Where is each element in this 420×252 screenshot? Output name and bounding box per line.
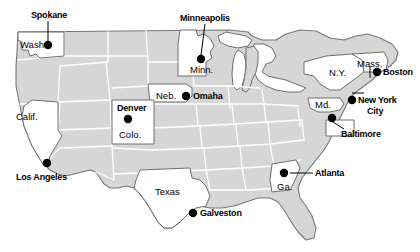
state-label-colorado: Colo. [119, 130, 141, 140]
city-label-newyork: New York [358, 96, 397, 105]
city-label-minneapolis: Minneapolis [180, 14, 230, 23]
state-label-washington: Wash. [20, 40, 47, 50]
city-label-boston: Boston [383, 68, 413, 77]
city-dot-newyorkcity[interactable] [348, 96, 356, 104]
us-map-figure: Spokane Minneapolis Omaha Boston New Yor… [0, 0, 420, 252]
state-label-california: Calif. [16, 112, 38, 122]
state-label-nebraska: Neb. [156, 91, 176, 101]
city-dot-denver[interactable] [124, 115, 132, 123]
city-label-galveston: Galveston [200, 209, 242, 218]
city-label-atlanta: Atlanta [315, 169, 344, 178]
city-dot-atlanta[interactable] [280, 169, 288, 177]
state-label-massachusetts: Mass. [357, 59, 382, 69]
city-dot-galveston[interactable] [189, 209, 197, 217]
state-label-texas: Texas [155, 187, 180, 197]
state-label-newyork: N.Y. [329, 68, 346, 78]
city-dot-baltimore[interactable] [328, 114, 336, 122]
city-dot-minneapolis[interactable] [197, 55, 205, 63]
city-label-denver: Denver [117, 104, 146, 113]
city-dot-losangeles[interactable] [43, 159, 51, 167]
city-label-baltimore: Baltimore [341, 130, 381, 139]
city-label-spokane: Spokane [31, 11, 67, 20]
city-dot-boston[interactable] [373, 68, 381, 76]
city-label-newyork-city-line2: City [367, 107, 383, 116]
city-label-omaha: Omaha [193, 92, 223, 101]
state-label-minnesota: Minn. [190, 65, 213, 75]
city-dot-omaha[interactable] [182, 92, 190, 100]
state-label-georgia: Ga. [277, 182, 292, 192]
state-label-maryland: Md. [315, 100, 331, 110]
city-label-losangeles: Los Angeles [16, 173, 67, 182]
